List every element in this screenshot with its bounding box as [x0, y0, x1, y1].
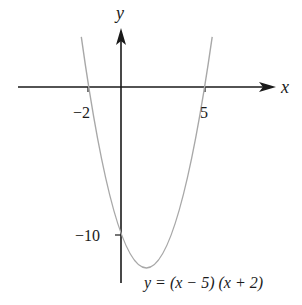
equation-label: y = (x − 5) (x + 2) [142, 274, 263, 292]
x-tick-label-neg2: −2 [73, 104, 90, 121]
y-axis-label: y [114, 3, 124, 23]
x-axis-label: x [280, 77, 289, 97]
x-tick-label-5: 5 [200, 104, 208, 121]
y-tick-label-neg10: −10 [75, 227, 100, 244]
parabola-curve [81, 37, 212, 268]
graph-canvas: y x −2 5 −10 y = (x − 5) (x + 2) [0, 0, 302, 305]
